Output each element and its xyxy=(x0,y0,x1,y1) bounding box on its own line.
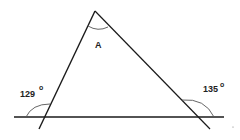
right-angle-value: 135 xyxy=(203,85,218,94)
apex-angle-arc xyxy=(88,26,108,29)
left-angle-value: 129 xyxy=(20,90,35,99)
left-exterior-angle-arc xyxy=(26,104,50,117)
apex-label: A xyxy=(95,41,102,50)
right-exterior-angle-arc xyxy=(182,100,214,117)
right-angle-degree-symbol: o xyxy=(220,81,224,88)
right-side-line xyxy=(95,11,210,129)
triangle-diagram xyxy=(0,0,240,140)
left-side-line xyxy=(39,11,95,129)
speck-dot xyxy=(232,126,233,127)
left-angle-degree-symbol: o xyxy=(39,84,43,91)
